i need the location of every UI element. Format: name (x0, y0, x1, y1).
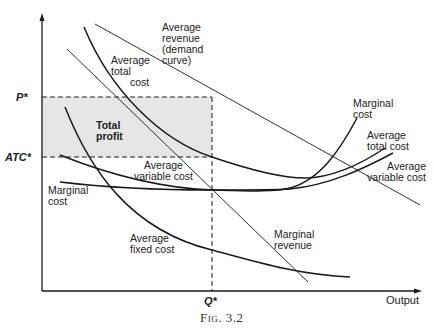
q-star-label: Q* (204, 295, 217, 307)
atc-right-label: Average total cost (367, 130, 409, 152)
mr-label: Marginal revenue (274, 229, 314, 251)
mc-left-label: Marginal cost (48, 185, 88, 207)
avc-left-line-2: variable cost (134, 171, 193, 182)
atc-star-label: ATC* (5, 151, 31, 163)
avc-right-line-2: variable cost (356, 172, 426, 183)
y-axis-arrow-icon (40, 13, 45, 21)
avc-left-label: Average variable cost (134, 160, 193, 182)
afc-line-2: fixed cost (130, 244, 174, 255)
atc-left-label: Average total cost (111, 55, 150, 88)
mr-line-2: revenue (274, 240, 314, 251)
average-variable-cost-curve (60, 153, 393, 190)
mc-right-label: Marginal cost (353, 98, 393, 120)
atc-left-line-3: cost (111, 77, 150, 88)
output-axis-label: Output (386, 295, 419, 306)
afc-label: Average fixed cost (130, 233, 174, 255)
p-star-label: P* (16, 91, 28, 103)
figure-caption: Fig. 3.2 (200, 310, 243, 326)
total-profit-line-2: profit (96, 131, 123, 142)
avc-right-label: Average variable cost (366, 161, 426, 183)
total-profit-label: Total profit (96, 120, 123, 142)
mc-left-line-2: cost (48, 196, 88, 207)
ar-label-line-4: curve) (162, 55, 203, 66)
atc-right-line-2: total cost (367, 141, 409, 152)
mc-right-line-2: cost (353, 109, 393, 120)
x-axis-arrow-icon (414, 289, 422, 294)
average-revenue-label: Average revenue (demand curve) (162, 22, 203, 66)
total-profit-region (42, 97, 212, 157)
